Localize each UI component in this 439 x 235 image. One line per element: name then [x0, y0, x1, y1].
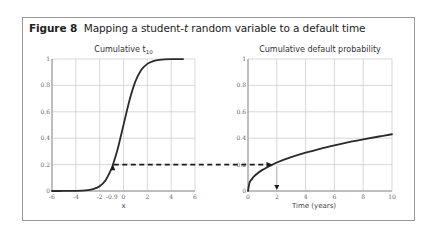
x-tick-label: -2	[97, 193, 103, 200]
y-tick-label: 1	[242, 55, 246, 62]
x-tick-label: 4	[169, 193, 173, 200]
x-tick-label: -0.9	[106, 193, 118, 200]
chart-title: Cumulative default probability	[259, 45, 381, 54]
chart-title: Cumulative t10	[94, 45, 153, 55]
x-tick-label: -6	[49, 193, 55, 200]
x-tick-label: 6	[193, 193, 197, 200]
x-tick-label: 10	[388, 193, 396, 200]
x-tick-label: 2	[275, 193, 279, 200]
chart-title-subscript: 10	[146, 49, 153, 55]
x-tick-label: 8	[361, 193, 365, 200]
x-axis-label: x	[121, 202, 125, 210]
y-tick-label: 0.4	[236, 134, 246, 141]
y-tick-label: 0.6	[236, 108, 246, 115]
arrow-down-icon	[274, 185, 279, 190]
x-tick-label: 0	[246, 193, 250, 200]
y-tick-label: 0.8	[236, 81, 246, 88]
series-curve	[248, 134, 392, 191]
y-tick-label: 0.2	[40, 161, 50, 168]
x-tick-label: 0	[122, 193, 126, 200]
series-curve	[52, 59, 183, 191]
x-axis-label: Time (years)	[291, 202, 336, 210]
x-tick-label: 6	[332, 193, 336, 200]
y-tick-label: 1	[46, 55, 50, 62]
y-tick-label: 0.4	[40, 134, 50, 141]
y-tick-label: 0.6	[40, 108, 50, 115]
x-tick-label: -4	[73, 193, 79, 200]
x-tick-label: 2	[145, 193, 149, 200]
right-chart-cumulative-default-probability: 00.20.40.60.810246810Cumulative default …	[236, 45, 396, 210]
left-chart-cumulative-t10: 00.20.40.60.81-6-4-2-0.90246Cumulative t…	[40, 45, 197, 210]
y-tick-label: 0.8	[40, 81, 50, 88]
x-tick-label: 4	[304, 193, 308, 200]
charts-canvas: 00.20.40.60.81-6-4-2-0.90246Cumulative t…	[0, 0, 439, 235]
